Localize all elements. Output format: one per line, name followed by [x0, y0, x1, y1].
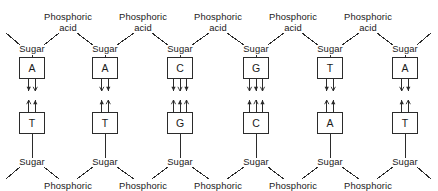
- sugar-label-top-4: Sugar: [317, 44, 343, 55]
- sugar-label-bottom-3: Sugar: [243, 157, 269, 168]
- base-letter: C: [244, 118, 268, 129]
- base-box-bottom-4: A: [317, 112, 343, 134]
- base-box-top-5: A: [392, 57, 418, 79]
- phosphoric-acid-line-2: acid: [44, 23, 92, 34]
- phosphoric-acid-label-top-1: Phosphoricacid: [119, 12, 167, 33]
- backbone-diagonal-bottom-1: [77, 167, 93, 179]
- phosphoric-acid-label-top-2: Phosphoricacid: [194, 12, 242, 33]
- base-letter: A: [93, 63, 117, 74]
- base-letter: T: [93, 118, 117, 129]
- backbone-diagonal-top-8: [342, 33, 359, 45]
- hydrogen-bond-head-bottom-0-1: [33, 100, 37, 104]
- hydrogen-bond-head-top-0-0: [27, 87, 31, 91]
- sugar-label-top-0: Sugar: [19, 44, 45, 55]
- base-letter: G: [168, 118, 192, 129]
- sugar-label-top-3: Sugar: [243, 44, 269, 55]
- base-letter: T: [393, 118, 417, 129]
- backbone-diagonal-top-4: [192, 33, 209, 45]
- phosphoric-acid-line-2: acid: [194, 23, 242, 34]
- base-letter: T: [20, 118, 44, 129]
- phosphoric-acid-line-1: Phosphoric: [119, 12, 167, 23]
- phosphoric-acid-line-2: acid: [119, 23, 167, 34]
- backbone-diagonal-top-6: [268, 33, 284, 45]
- phosphoric-acid-line-1: Phosphoric: [119, 181, 167, 191]
- backbone-diagonal-top-0: [44, 33, 59, 45]
- base-box-top-4: T: [317, 57, 343, 79]
- sugar-label-bottom-5: Sugar: [392, 157, 418, 168]
- sugar-label-bottom-4: Sugar: [317, 157, 343, 168]
- backbone-diagonal-bottom-3: [152, 167, 168, 179]
- phosphoric-acid-label-top-3: Phosphoricacid: [269, 12, 317, 33]
- backbone-diagonal-bottom-7: [302, 167, 318, 179]
- base-box-bottom-2: G: [167, 112, 193, 134]
- phosphoric-acid-line-1: Phosphoric: [194, 181, 242, 191]
- hydrogen-bond-head-bottom-5-0: [400, 100, 404, 104]
- backbone-stub-top-right: [417, 33, 431, 45]
- phosphoric-acid-line-2: acid: [344, 23, 392, 34]
- backbone-stub-bottom-left: [6, 167, 20, 179]
- hydrogen-bond-head-bottom-1-0: [100, 100, 104, 104]
- phosphoric-acid-label-top-0: Phosphoricacid: [44, 12, 92, 33]
- phosphoric-acid-label-bottom-1: Phosphoricacid: [119, 181, 167, 191]
- base-letter: A: [318, 118, 342, 129]
- phosphoric-acid-label-bottom-0: Phosphoricacid: [44, 181, 92, 191]
- phosphoric-acid-line-1: Phosphoric: [344, 12, 392, 23]
- phosphoric-acid-line-1: Phosphoric: [269, 181, 317, 191]
- sugar-label-top-1: Sugar: [92, 44, 118, 55]
- backbone-diagonal-bottom-5: [227, 167, 244, 179]
- hydrogen-bond-head-top-2-2: [184, 87, 188, 91]
- backbone-diagonal-top-5: [227, 33, 244, 45]
- hydrogen-bond-head-top-1-1: [106, 87, 110, 91]
- sugar-label-bottom-2: Sugar: [167, 157, 193, 168]
- phosphoric-acid-line-1: Phosphoric: [44, 181, 92, 191]
- hydrogen-bond-head-top-2-0: [171, 87, 175, 91]
- phosphoric-acid-line-1: Phosphoric: [269, 12, 317, 23]
- base-letter: C: [168, 63, 192, 74]
- phosphoric-acid-label-bottom-4: Phosphoricacid: [344, 181, 392, 191]
- phosphoric-acid-label-top-4: Phosphoricacid: [344, 12, 392, 33]
- backbone-diagonal-top-7: [302, 33, 318, 45]
- backbone-diagonal-top-9: [377, 33, 393, 45]
- sugar-label-bottom-0: Sugar: [19, 157, 45, 168]
- base-box-top-1: A: [92, 57, 118, 79]
- hydrogen-bond-head-top-5-1: [406, 87, 410, 91]
- base-box-top-0: A: [19, 57, 45, 79]
- phosphoric-acid-label-bottom-2: Phosphoricacid: [194, 181, 242, 191]
- backbone-diagonal-bottom-0: [44, 167, 59, 179]
- base-box-bottom-3: C: [243, 112, 269, 134]
- backbone-diagonal-bottom-4: [192, 167, 209, 179]
- hydrogen-bond-head-bottom-4-1: [331, 100, 335, 104]
- hydrogen-bond-head-bottom-3-2: [260, 100, 264, 104]
- backbone-stub-bottom-right: [417, 167, 431, 179]
- base-box-bottom-0: T: [19, 112, 45, 134]
- phosphoric-acid-line-1: Phosphoric: [44, 12, 92, 23]
- backbone-diagonal-top-2: [117, 33, 134, 45]
- sugar-label-top-5: Sugar: [392, 44, 418, 55]
- base-box-bottom-5: T: [392, 112, 418, 134]
- base-letter: A: [393, 63, 417, 74]
- hydrogen-bond-head-bottom-3-0: [247, 100, 251, 104]
- phosphoric-acid-label-bottom-3: Phosphoricacid: [269, 181, 317, 191]
- hydrogen-bond-head-bottom-2-1: [178, 100, 182, 104]
- backbone-stub-top-left: [6, 33, 20, 45]
- base-box-top-2: C: [167, 57, 193, 79]
- base-letter: T: [318, 63, 342, 74]
- base-letter: A: [20, 63, 44, 74]
- backbone-diagonal-top-3: [152, 33, 168, 45]
- phosphoric-acid-line-2: acid: [269, 23, 317, 34]
- hydrogen-bond-head-top-3-1: [254, 87, 258, 91]
- base-box-bottom-1: T: [92, 112, 118, 134]
- base-letter: G: [244, 63, 268, 74]
- backbone-diagonal-bottom-6: [268, 167, 284, 179]
- backbone-diagonal-bottom-9: [377, 167, 393, 179]
- sugar-label-bottom-1: Sugar: [92, 157, 118, 168]
- base-box-top-3: G: [243, 57, 269, 79]
- dna-base-pairing-diagram: SugarSugarSugarSugarSugarSugarSugarSugar…: [0, 0, 438, 191]
- backbone-diagonal-top-1: [77, 33, 93, 45]
- backbone-diagonal-bottom-2: [117, 167, 134, 179]
- backbone-diagonal-bottom-8: [342, 167, 359, 179]
- sugar-label-top-2: Sugar: [167, 44, 193, 55]
- phosphoric-acid-line-1: Phosphoric: [194, 12, 242, 23]
- phosphoric-acid-line-1: Phosphoric: [344, 181, 392, 191]
- hydrogen-bond-head-top-4-0: [325, 87, 329, 91]
